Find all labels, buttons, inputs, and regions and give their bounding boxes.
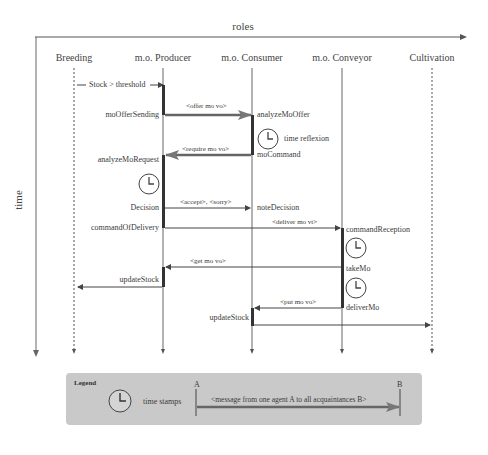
message-get-label: <get mo vo>: [190, 257, 226, 265]
event-command-reception: commandReception: [346, 225, 410, 234]
time-axis: [33, 37, 39, 357]
activation-conveyor: [341, 228, 344, 308]
activation-producer-3: [162, 267, 165, 287]
legend-agent-b: B: [397, 380, 402, 389]
legend-agent-a: A: [194, 380, 200, 389]
legend-time-stamps: time stamps: [143, 397, 181, 406]
legend-message-label: <message from one agent A to all acquain…: [211, 395, 367, 404]
message-require-label: <require mo vo>: [182, 145, 229, 153]
activation-producer-1: [162, 85, 165, 115]
message-accept-sorry-label: <accept>, <sorry>: [180, 198, 232, 206]
event-command-of-delivery: commandOfDelivery: [91, 223, 159, 232]
clock-icon: [258, 129, 278, 149]
role-consumer: m.o. Consumer: [221, 52, 282, 63]
roles-axis: [35, 34, 467, 40]
event-stock-threshold: Stock > threshold: [89, 80, 146, 89]
role-producer: m.o. Producer: [135, 52, 191, 63]
clock-icon: [139, 174, 159, 194]
event-deliver-mo: deliverMo: [346, 303, 379, 312]
message-deliver-label: <deliver mo vt>: [272, 218, 317, 226]
activation-consumer-1: [251, 115, 254, 155]
event-mo-offer-sending: moOfferSending: [105, 110, 159, 119]
event-analyze-mo-request: analyzeMoRequest: [98, 155, 159, 164]
activation-consumer-2: [251, 308, 254, 326]
lifeline-breeding: [72, 68, 76, 354]
lifeline-cultivation: [430, 68, 434, 354]
clock-icon: [346, 278, 366, 298]
message-put-label: <put mo vo>: [280, 298, 316, 306]
event-mo-command: moCommand: [257, 150, 301, 159]
legend-box: Legend time stamps A B <message from one…: [66, 373, 422, 425]
role-breeding: Breeding: [56, 52, 93, 63]
activation-producer-2: [162, 155, 165, 228]
event-analyze-mo-offer: analyzeMoOffer: [257, 110, 310, 119]
message-offer-label: <offer mo vo>: [186, 102, 227, 110]
event-update-stock-producer: updateStock: [119, 275, 159, 284]
event-decision: Decision: [131, 203, 159, 212]
event-note-decision: noteDecision: [257, 203, 299, 212]
roles-axis-label: roles: [232, 20, 253, 32]
event-take-mo: takeMo: [346, 264, 370, 273]
clock-icon: [346, 238, 366, 258]
time-axis-label: time: [12, 190, 24, 210]
role-cultivation: Cultivation: [410, 52, 455, 63]
event-time-reflexion: time reflexion: [284, 134, 329, 143]
event-update-stock-consumer: updateStock: [209, 313, 249, 322]
lifeline-conveyor: [340, 68, 344, 354]
clock-icon: [109, 390, 131, 412]
role-conveyor: m.o. Conveyor: [312, 52, 372, 63]
